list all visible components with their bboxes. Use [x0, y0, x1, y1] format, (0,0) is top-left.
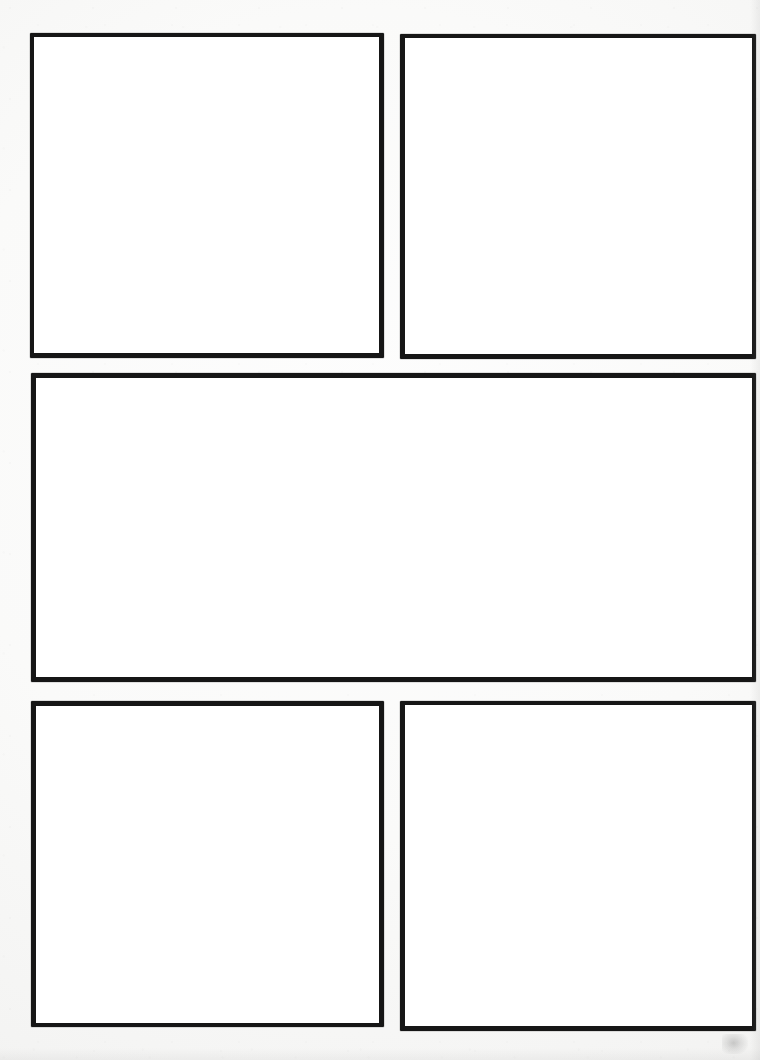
comic-panel-5[interactable] — [400, 701, 756, 1031]
page-edge-shading-bottom — [0, 1048, 760, 1060]
comic-panel-2[interactable] — [400, 34, 756, 359]
scan-smudge-artifact — [722, 1034, 748, 1054]
comic-panel-3[interactable] — [31, 373, 756, 682]
comic-panel-4[interactable] — [31, 701, 384, 1027]
comic-page-template — [0, 0, 760, 1060]
comic-panel-1[interactable] — [30, 33, 384, 358]
